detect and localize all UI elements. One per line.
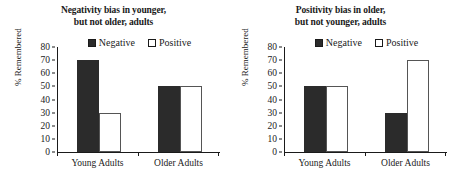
x-axis-tick-mark: [365, 152, 366, 156]
x-axis-tick-mark: [218, 152, 219, 156]
bars-container: [58, 47, 220, 152]
y-axis-tick-mark: [52, 99, 55, 100]
x-axis-label-older-adults: Older Adults: [154, 158, 203, 168]
bar-group: [139, 47, 220, 152]
y-axis-tick-mark: [279, 47, 282, 48]
y-axis-tick-label: 30: [41, 108, 51, 118]
y-axis-tick-label: 50: [268, 81, 278, 91]
plot-area: [57, 47, 220, 153]
y-axis-tick-label: 60: [268, 68, 278, 78]
y-axis-tick-label: 40: [268, 95, 278, 105]
figure-two-bar-charts: Negativity bias in younger, but not olde…: [0, 0, 454, 182]
y-axis-tick-label: 20: [268, 121, 278, 131]
x-axis-label-older-adults: Older Adults: [381, 158, 430, 168]
y-axis-tick-mark: [52, 125, 55, 126]
y-axis-tick-mark: [52, 152, 55, 153]
plot-area: [284, 47, 447, 153]
y-axis-tick-label: 70: [41, 55, 51, 65]
y-axis-tick-label: 60: [41, 68, 51, 78]
chart-title: Negativity bias in younger, but not olde…: [10, 5, 217, 28]
y-axis-ticks: 01020304050607080: [227, 47, 282, 152]
chart-panel-negativity-bias: Negativity bias in younger, but not olde…: [0, 0, 227, 182]
y-axis-tick-mark: [52, 112, 55, 113]
x-axis-ticks: [57, 152, 219, 157]
y-axis-tick-label: 30: [268, 108, 278, 118]
x-axis-ticks: [284, 152, 446, 157]
x-axis-tick-mark: [57, 152, 58, 156]
bar-negative-older-adults: [385, 113, 407, 152]
x-axis-labels: Young AdultsOlder Adults: [284, 158, 446, 174]
bar-positive-older-adults: [407, 60, 429, 152]
x-axis-label-young-adults: Young Adults: [298, 158, 350, 168]
bar-group: [366, 47, 447, 152]
bar-positive-young-adults: [326, 86, 348, 152]
y-axis-tick-label: 20: [41, 121, 51, 131]
legend-swatch-negative-icon: [88, 39, 96, 47]
y-axis-tick-mark: [52, 47, 55, 48]
y-axis-tick-mark: [52, 60, 55, 61]
chart-title: Positivity bias in older, but not younge…: [237, 5, 444, 28]
y-axis-tick-label: 80: [41, 42, 51, 52]
bars-container: [285, 47, 447, 152]
y-axis-tick-label: 10: [268, 134, 278, 144]
bar-negative-young-adults: [304, 86, 326, 152]
chart-title-line-2: but not younger, adults: [237, 17, 444, 29]
y-axis-tick-mark: [279, 99, 282, 100]
legend-swatch-positive-icon: [375, 39, 383, 47]
x-axis-labels: Young AdultsOlder Adults: [57, 158, 219, 174]
chart-title-line-1: Positivity bias in older,: [237, 5, 444, 17]
y-axis-tick-label: 50: [41, 81, 51, 91]
y-axis-tick-label: 0: [45, 147, 50, 157]
y-axis-tick-mark: [279, 73, 282, 74]
y-axis-tick-mark: [279, 125, 282, 126]
x-axis-tick-mark: [138, 152, 139, 156]
y-axis-tick-label: 10: [41, 134, 51, 144]
bar-negative-older-adults: [158, 86, 180, 152]
legend-swatch-negative-icon: [315, 39, 323, 47]
chart-title-line-2: but not older, adults: [10, 17, 217, 29]
y-axis-tick-label: 0: [272, 147, 277, 157]
y-axis-tick-mark: [279, 60, 282, 61]
y-axis-tick-label: 70: [268, 55, 278, 65]
y-axis-ticks: 01020304050607080: [0, 47, 55, 152]
bar-group: [285, 47, 366, 152]
chart-panel-positivity-bias: Positivity bias in older, but not younge…: [227, 0, 454, 182]
y-axis-tick-label: 80: [268, 42, 278, 52]
y-axis-tick-label: 40: [41, 95, 51, 105]
bar-positive-older-adults: [180, 86, 202, 152]
bar-group: [58, 47, 139, 152]
y-axis-tick-mark: [52, 86, 55, 87]
y-axis-tick-mark: [279, 138, 282, 139]
chart-title-line-1: Negativity bias in younger,: [10, 5, 217, 17]
y-axis-tick-mark: [279, 86, 282, 87]
legend-swatch-positive-icon: [148, 39, 156, 47]
x-axis-tick-mark: [445, 152, 446, 156]
y-axis-tick-mark: [279, 112, 282, 113]
bar-negative-young-adults: [77, 60, 99, 152]
bar-positive-young-adults: [99, 113, 121, 152]
y-axis-tick-mark: [279, 152, 282, 153]
x-axis-tick-mark: [284, 152, 285, 156]
y-axis-tick-mark: [52, 73, 55, 74]
x-axis-label-young-adults: Young Adults: [71, 158, 123, 168]
y-axis-tick-mark: [52, 138, 55, 139]
